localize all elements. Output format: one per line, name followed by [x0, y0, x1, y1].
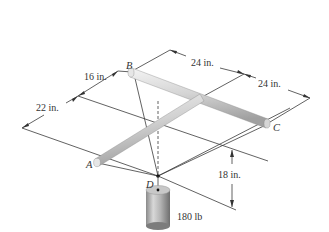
dimension-24in-right: 24 in. [244, 74, 310, 98]
statics-diagram: 16 in. 22 in. 24 in. 24 in. 18 in. [0, 0, 329, 232]
dimension-22in: 22 in. [22, 96, 78, 128]
load-label: 180 lb [177, 211, 202, 222]
dimension-24in-left: 24 in. [170, 50, 244, 74]
dim-label-22in: 22 in. [36, 102, 59, 113]
rod-A [94, 94, 204, 167]
label-C: C [273, 122, 281, 133]
label-A: A [85, 159, 93, 170]
dim-label-24in-right: 24 in. [258, 78, 281, 89]
reference-lines [22, 50, 310, 210]
dimension-18in: 18 in. [218, 150, 241, 207]
dimension-16in: 16 in. [78, 71, 132, 96]
label-B: B [126, 60, 133, 71]
dim-label-16in: 16 in. [84, 71, 107, 82]
label-D: D [145, 179, 154, 190]
cable-CD [158, 124, 268, 176]
dim-label-24in-left: 24 in. [191, 57, 214, 68]
dim-label-18in: 18 in. [218, 169, 241, 180]
cable-AD [98, 163, 158, 176]
